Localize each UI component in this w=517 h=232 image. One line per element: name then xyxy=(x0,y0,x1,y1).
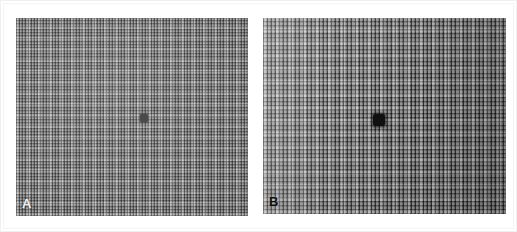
panel-a-label: A xyxy=(22,197,32,210)
panel-b-central-dark-spot xyxy=(373,114,385,126)
panel-b: B xyxy=(263,18,506,214)
panel-a-illumination-shading xyxy=(16,18,248,216)
figure-root: A B xyxy=(0,0,517,232)
panel-a-central-dark-spot xyxy=(140,114,148,122)
panel-b-label: B xyxy=(269,195,279,208)
panel-a: A xyxy=(16,18,248,216)
